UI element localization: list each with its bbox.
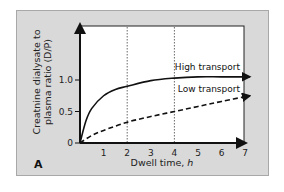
panel-letter: A bbox=[34, 158, 43, 171]
legend-low-transport: Low transport bbox=[178, 84, 241, 94]
svg-text:1: 1 bbox=[101, 148, 107, 158]
x-axis-label: Dwell time, h bbox=[131, 157, 194, 168]
y-axis-label-line1: Creatnine dialysate to bbox=[31, 29, 42, 134]
y-axis-ticks: 00.51.0 bbox=[59, 75, 80, 148]
svg-text:0: 0 bbox=[67, 138, 73, 148]
svg-text:7: 7 bbox=[242, 148, 248, 158]
svg-text:2: 2 bbox=[124, 148, 130, 158]
svg-text:0.5: 0.5 bbox=[59, 107, 73, 117]
y-axis-label: Creatnine dialysate to plasma ratio (D/P… bbox=[31, 29, 53, 134]
svg-text:6: 6 bbox=[219, 148, 225, 158]
svg-text:1.0: 1.0 bbox=[59, 75, 74, 85]
line-chart: 00.51.0 1234567 Creatnine dialysate to p… bbox=[0, 0, 284, 192]
svg-text:5: 5 bbox=[195, 148, 201, 158]
y-axis-label-line2: plasma ratio (D/P) bbox=[42, 39, 53, 125]
legend-high-transport: High transport bbox=[175, 62, 241, 72]
